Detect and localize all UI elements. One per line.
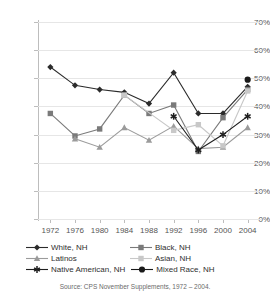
series-3 [122,88,251,148]
data-point-asterisk [195,147,201,154]
x-axis-tick-label: 2000 [214,226,232,235]
data-point-diamond [195,110,201,116]
x-axis-tick-label: 2004 [239,226,257,235]
data-point-triangle [121,124,127,130]
gridline [38,219,262,220]
data-point-triangle [96,144,102,150]
line-chart: 0%10%20%30%40%50%60%70% 1972197619801984… [0,0,270,303]
series-0 [47,64,251,117]
data-point-square [97,126,102,131]
gridline [38,191,262,192]
data-point-triangle [146,137,152,143]
data-point-diamond [245,84,251,90]
legend-marker-diamond-icon [26,243,48,252]
legend-label: Latinos [51,254,77,263]
x-axis-tick-label: 1980 [91,226,109,235]
data-point-diamond [171,70,177,76]
data-point-triangle [72,136,78,142]
series-1 [48,87,251,154]
legend-marker-square-icon [130,243,152,252]
legend-item-black-nh[interactable]: Black, NH [130,243,246,252]
data-point-circle [139,266,145,272]
data-point-diamond [34,244,40,250]
x-axis-tick-label: 1996 [189,226,207,235]
legend-marker-asterisk-icon [26,265,48,274]
data-point-triangle [170,123,176,129]
legend-item-latinos[interactable]: Latinos [26,254,130,263]
series-line [75,126,248,149]
legend-row: White, NHBlack, NH [26,243,246,252]
x-axis-tick-label: 1992 [165,226,183,235]
chart-legend: White, NHBlack, NHLatinosAsian, NHNative… [26,243,246,276]
legend-label: Asian, NH [155,254,191,263]
x-axis-tick-label: 1976 [66,226,84,235]
data-point-square [138,245,143,250]
data-point-square-light [138,256,143,261]
gridline [38,163,262,164]
series-line [124,91,247,146]
data-point-triangle [220,144,226,150]
data-point-asterisk [171,113,177,120]
data-point-asterisk [245,113,251,120]
gridline [38,135,262,136]
legend-item-native-american-nh[interactable]: Native American, NH [26,265,125,274]
legend-item-mixed-race-nh[interactable]: Mixed Race, NH [131,265,214,274]
legend-item-asian-nh[interactable]: Asian, NH [130,254,246,263]
data-point-diamond [121,89,127,95]
legend-marker-circle-icon [131,265,153,274]
series-line [50,90,247,152]
data-point-square [220,115,225,120]
legend-item-white-nh[interactable]: White, NH [26,243,130,252]
data-point-diamond [72,82,78,88]
legend-label: Mixed Race, NH [156,265,214,274]
x-axis-tick-label: 1972 [41,226,59,235]
x-axis-tick-label: 1988 [140,226,158,235]
gridline [38,22,262,23]
data-point-square [245,87,250,92]
data-point-square-light [220,143,225,148]
data-point-square-light [196,122,201,127]
legend-row: Native American, NHMixed Race, NH [26,265,246,274]
data-point-square-light [245,88,250,93]
data-point-diamond [220,110,226,116]
gridline [38,50,262,51]
legend-label: Native American, NH [51,265,125,274]
source-note: Source: CPS November Supplements, 1972 –… [0,283,270,290]
data-point-diamond [97,86,103,92]
data-point-triangle [195,145,201,151]
data-point-diamond [47,64,53,70]
legend-row: LatinosAsian, NH [26,254,246,263]
data-point-square [146,111,151,116]
data-point-square-light [171,128,176,133]
gridline [38,78,262,79]
data-point-square [122,92,127,97]
x-axis-tick-label: 1984 [115,226,133,235]
legend-label: White, NH [51,243,87,252]
legend-label: Black, NH [155,243,191,252]
data-point-square [196,149,201,154]
data-point-square-light [122,92,127,97]
legend-marker-square-light-icon [130,254,152,263]
gridline [38,106,262,107]
legend-marker-triangle-icon [26,254,48,263]
data-point-square [48,111,53,116]
series-2 [72,123,251,151]
